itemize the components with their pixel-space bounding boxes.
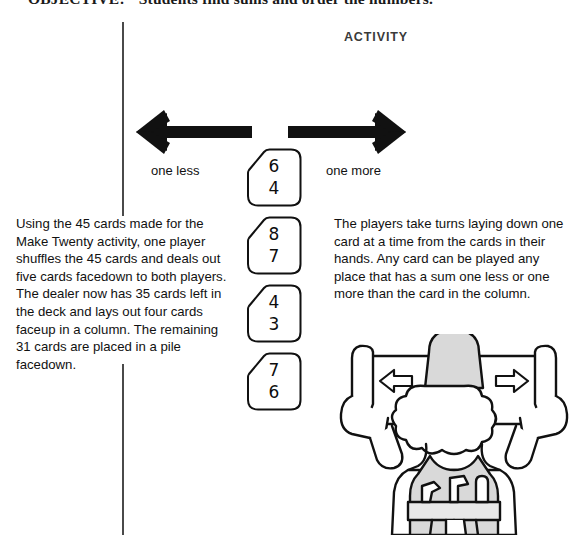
- column-divider-bottom: [122, 364, 124, 535]
- arrow-right-icon: [288, 108, 408, 156]
- card: 6 4: [246, 148, 302, 207]
- card-bottom-digit: 6: [269, 382, 280, 403]
- card-top-digit: 4: [269, 292, 280, 313]
- card-top-digit: 7: [269, 360, 280, 381]
- card-bottom-digit: 3: [269, 314, 280, 335]
- objective-text: Students find sums and order the numbers…: [139, 0, 433, 7]
- objective-line: OBJECTIVE:Students find sums and order t…: [28, 0, 568, 8]
- column-divider-top: [122, 22, 124, 216]
- arrow-left-icon: [134, 108, 252, 156]
- carpenter-holding-sign-illustration: [330, 334, 578, 535]
- one-less-label: one less: [151, 163, 199, 178]
- card-column: 6 4 8 7 4 3: [246, 148, 304, 420]
- worksheet-page: OBJECTIVE:Students find sums and order t…: [0, 0, 578, 535]
- card-bottom-digit: 7: [269, 246, 280, 267]
- card-top-digit: 8: [269, 224, 280, 245]
- left-instructions-paragraph: Using the 45 cards made for the Make Twe…: [16, 215, 228, 373]
- objective-label: OBJECTIVE:: [28, 0, 125, 7]
- card: 8 7: [246, 216, 302, 275]
- card: 7 6: [246, 352, 302, 411]
- card: 4 3: [246, 284, 302, 343]
- right-instructions-paragraph: The players take turns laying down one c…: [334, 215, 570, 303]
- card-bottom-digit: 4: [269, 178, 280, 199]
- card-top-digit: 6: [269, 156, 280, 177]
- one-more-label: one more: [326, 163, 381, 178]
- activity-heading: ACTIVITY: [300, 30, 452, 44]
